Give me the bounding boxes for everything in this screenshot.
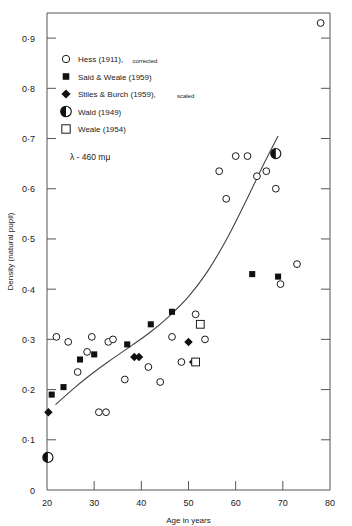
y-tick-label: 0·8 — [22, 84, 35, 94]
data-point — [121, 376, 128, 383]
data-point — [91, 351, 97, 357]
series-open-square — [192, 320, 204, 365]
y-tick-label: 0·6 — [22, 184, 35, 194]
legend-item-filled-square: Said & Weale (1959) — [63, 73, 152, 82]
legend-label-suffix: scaled — [177, 93, 194, 99]
marker-open-circle — [62, 55, 69, 62]
data-point — [74, 369, 81, 376]
figure-container: 00·10·20·30·40·50·60·70·80·9203040506070… — [0, 0, 352, 526]
data-point — [216, 168, 223, 175]
data-point — [253, 173, 260, 180]
series-filled-square — [49, 271, 281, 398]
data-point — [263, 168, 270, 175]
y-tick-label: 0 — [30, 486, 35, 496]
data-point — [223, 195, 230, 202]
y-tick-label: 0·9 — [22, 34, 35, 44]
data-point — [135, 353, 144, 362]
x-tick-label: 50 — [183, 498, 193, 508]
x-axis-title: Age in years — [166, 516, 210, 525]
marker-filled-square — [63, 73, 70, 80]
data-point — [103, 409, 110, 416]
data-point — [43, 452, 53, 462]
data-point — [192, 358, 200, 366]
data-point — [65, 338, 72, 345]
data-point — [95, 409, 102, 416]
axes: 00·10·20·30·40·50·60·70·80·9203040506070… — [22, 13, 335, 508]
data-point — [157, 379, 164, 386]
y-tick-label: 0·3 — [22, 335, 35, 345]
data-point — [249, 271, 255, 277]
data-point — [53, 333, 60, 340]
data-point — [275, 274, 281, 280]
legend: Hess (1911),correctedSaid & Weale (1959)… — [61, 55, 195, 161]
data-point — [294, 261, 301, 268]
data-point — [196, 320, 204, 328]
series-half-circle — [43, 149, 281, 463]
series-filled-diamond — [44, 338, 197, 417]
legend-item-filled-diamond: Stiles & Burch (1959),scaled — [61, 89, 194, 99]
legend-item-open-circle: Hess (1911),corrected — [62, 55, 157, 64]
legend-item-half-circle: Wald (1949) — [61, 106, 122, 117]
data-point — [49, 392, 55, 398]
y-tick-label: 0·4 — [22, 285, 35, 295]
x-tick-label: 80 — [325, 498, 335, 508]
marker-open-square — [62, 125, 70, 133]
data-point — [124, 341, 130, 347]
data-point — [192, 311, 199, 318]
data-point — [169, 309, 175, 315]
data-point — [44, 408, 53, 417]
x-tick-label: 60 — [231, 498, 241, 508]
data-point — [148, 321, 154, 327]
data-points — [43, 20, 324, 463]
data-point — [145, 364, 152, 371]
density-vs-age-scatter-plot: 00·10·20·30·40·50·60·70·80·9203040506070… — [0, 0, 352, 526]
data-point — [60, 384, 66, 390]
wavelength-annotation: λ - 460 mμ — [70, 152, 110, 162]
marker-half-circle — [61, 106, 72, 117]
marker-filled-diamond — [61, 89, 70, 98]
y-tick-label: 0·2 — [22, 385, 35, 395]
data-point — [244, 153, 251, 160]
data-point — [178, 359, 185, 366]
data-point — [184, 338, 193, 347]
data-point — [232, 153, 239, 160]
legend-label-suffix: corrected — [132, 58, 157, 64]
data-point — [77, 356, 83, 362]
legend-label: Said & Weale (1959) — [78, 73, 152, 82]
y-tick-label: 0·5 — [22, 234, 35, 244]
data-point — [277, 281, 284, 288]
data-point — [317, 20, 324, 27]
fitted-curve-line — [56, 136, 279, 405]
legend-label: Stiles & Burch (1959), — [78, 90, 156, 99]
data-point — [202, 336, 209, 343]
fitted-curve — [56, 136, 279, 405]
legend-item-open-square: Weale (1954) — [62, 125, 126, 135]
x-tick-label: 30 — [89, 498, 99, 508]
axis-titles: Age in yearsDensity (natural pupil) — [6, 212, 211, 525]
data-point — [110, 336, 117, 343]
y-axis-title: Density (natural pupil) — [6, 212, 15, 290]
y-tick-label: 0·1 — [22, 435, 35, 445]
x-tick-label: 70 — [278, 498, 288, 508]
legend-label: Hess (1911), — [78, 55, 123, 64]
data-point — [84, 348, 91, 355]
y-tick-label: 0·7 — [22, 134, 35, 144]
plot-frame — [47, 13, 330, 490]
data-point — [272, 185, 279, 192]
data-point — [88, 333, 95, 340]
data-point — [169, 333, 176, 340]
data-point — [271, 149, 281, 159]
legend-label: Wald (1949) — [78, 108, 122, 117]
legend-label: Weale (1954) — [78, 125, 126, 134]
x-tick-label: 20 — [42, 498, 52, 508]
x-tick-label: 40 — [136, 498, 146, 508]
